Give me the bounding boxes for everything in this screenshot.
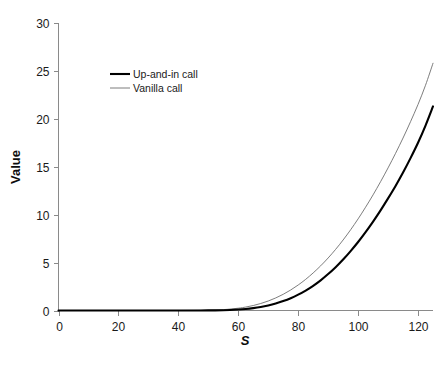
y-tick-label: 20 <box>36 113 50 127</box>
series-line <box>59 63 434 310</box>
x-axis-tick-labels: 020406080100120 <box>56 320 429 334</box>
line-chart: 051015202530 Value 020406080100120 S Up-… <box>0 0 446 371</box>
y-tick-label: 5 <box>43 257 50 271</box>
data-series-group <box>59 63 434 310</box>
x-tick-label: 40 <box>172 320 186 334</box>
x-tick-label: 20 <box>112 320 126 334</box>
legend-label: Up-and-in call <box>133 68 198 80</box>
x-tick-label: 120 <box>408 320 428 334</box>
x-tick-label: 0 <box>56 320 63 334</box>
legend-label: Vanilla call <box>133 82 182 94</box>
y-tick-label: 0 <box>43 305 50 319</box>
x-axis: 020406080100120 S <box>56 311 433 349</box>
y-axis: 051015202530 Value <box>8 17 59 319</box>
y-tick-label: 30 <box>36 17 50 31</box>
y-axis-title: Value <box>8 150 23 184</box>
series-line <box>59 106 434 310</box>
x-tick-label: 80 <box>292 320 306 334</box>
x-axis-title: S <box>241 333 250 348</box>
x-tick-label: 60 <box>232 320 246 334</box>
y-axis-tick-labels: 051015202530 <box>36 17 50 319</box>
chart-legend: Up-and-in callVanilla call <box>110 68 198 94</box>
y-axis-ticks <box>54 24 59 312</box>
y-tick-label: 15 <box>36 161 50 175</box>
y-tick-label: 25 <box>36 65 50 79</box>
y-tick-label: 10 <box>36 209 50 223</box>
x-tick-label: 100 <box>348 320 368 334</box>
chart-figure: 051015202530 Value 020406080100120 S Up-… <box>0 0 446 371</box>
